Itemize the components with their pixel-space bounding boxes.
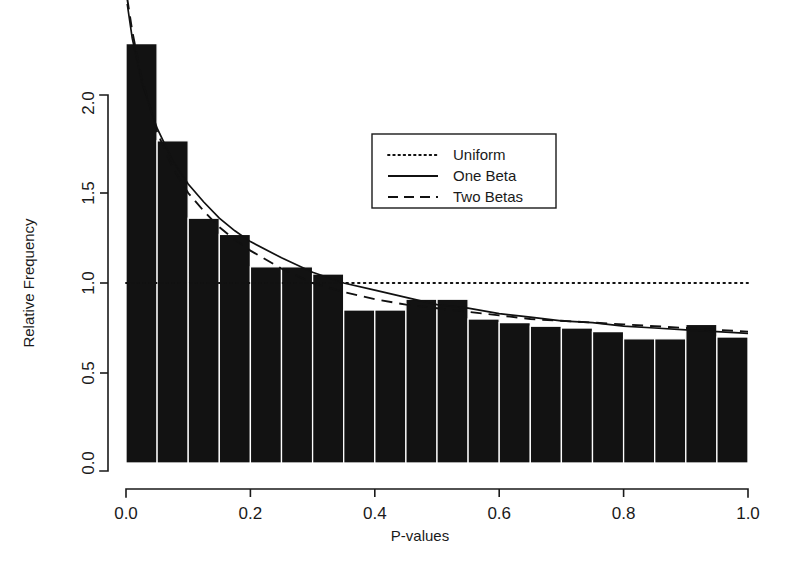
y-axis: 0.00.51.01.52.0 Relative Frequency — [20, 91, 108, 475]
histogram-bar — [157, 141, 188, 463]
histogram-bar — [593, 332, 624, 463]
y-tick-label: 1.0 — [79, 271, 98, 295]
y-tick-label: 0.5 — [79, 361, 98, 385]
y-tick-label: 0.0 — [79, 451, 98, 475]
y-axis-title: Relative Frequency — [20, 218, 37, 348]
x-axis-ticks: 0.00.20.40.60.81.0 — [114, 489, 760, 523]
x-axis: 0.00.20.40.60.81.0 P-values — [114, 489, 760, 544]
y-axis-ticks: 0.00.51.01.52.0 — [79, 91, 108, 475]
x-tick-label: 0.0 — [114, 504, 138, 523]
histogram-bar — [126, 44, 157, 463]
histogram-bar — [686, 324, 717, 463]
histogram-bar — [561, 328, 592, 463]
legend-entries: UniformOne BetaTwo Betas — [388, 146, 523, 205]
histogram-bar — [375, 310, 406, 463]
legend-label: One Beta — [453, 167, 517, 184]
histogram-bars — [126, 44, 748, 463]
x-axis-line — [126, 489, 748, 497]
histogram-bar — [282, 267, 313, 463]
histogram-bar — [313, 274, 344, 463]
histogram-bar — [624, 339, 655, 463]
histogram-bar — [499, 323, 530, 463]
histogram-bar — [468, 319, 499, 463]
histogram-bar — [344, 310, 375, 463]
histogram-bar — [250, 267, 281, 463]
histogram-bar — [219, 234, 250, 463]
histogram-bar — [437, 299, 468, 463]
x-tick-label: 0.6 — [487, 504, 511, 523]
x-tick-label: 1.0 — [736, 504, 760, 523]
histogram-bar — [717, 337, 748, 463]
histogram-bar — [655, 339, 686, 463]
histogram-figure: 0.00.51.01.52.0 Relative Frequency 0.00.… — [0, 0, 797, 577]
chart-legend: UniformOne BetaTwo Betas — [372, 134, 556, 208]
x-axis-title: P-values — [391, 527, 449, 544]
histogram-bar — [406, 299, 437, 463]
chart-canvas: 0.00.51.01.52.0 Relative Frequency 0.00.… — [0, 0, 797, 577]
x-tick-label: 0.4 — [363, 504, 387, 523]
y-tick-label: 1.5 — [79, 181, 98, 205]
x-tick-label: 0.2 — [239, 504, 263, 523]
legend-label: Uniform — [453, 146, 506, 163]
x-tick-label: 0.8 — [612, 504, 636, 523]
legend-label: Two Betas — [453, 188, 523, 205]
histogram-bar — [188, 218, 219, 463]
y-tick-label: 2.0 — [79, 91, 98, 115]
histogram-bar — [530, 326, 561, 463]
